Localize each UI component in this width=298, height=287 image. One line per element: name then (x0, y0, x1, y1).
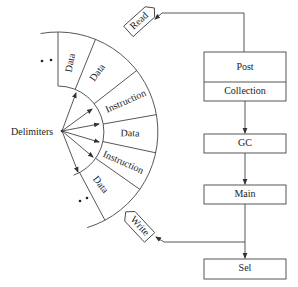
delimiters-hub: Delimiters (11, 93, 99, 172)
read-tag: Read (124, 3, 159, 37)
ellipsis-dot (50, 59, 53, 62)
post-to-read-connector (155, 13, 244, 52)
collection-label: Collection (224, 85, 266, 96)
segment-label: Data (91, 173, 112, 195)
buffer-flow-diagram: Data Data Instruction Data Instruction D… (0, 0, 298, 287)
post-label: Post (236, 61, 253, 72)
ellipsis-dot (41, 60, 44, 63)
segment-label: Data (120, 127, 140, 138)
delimiter-arrow (62, 124, 99, 131)
segment-label: Data (63, 52, 78, 73)
segment-label: Data (87, 61, 107, 83)
gc-box: GC (204, 134, 286, 153)
main-to-write-connector (156, 237, 245, 242)
delimiter-arrow (62, 93, 76, 131)
segment-label: Instruction (101, 148, 145, 176)
main-label: Main (234, 188, 255, 199)
main-box: Main (204, 185, 286, 204)
sel-label: Sel (239, 262, 252, 273)
write-tag: Write (121, 207, 155, 242)
ellipsis-dot (79, 200, 82, 203)
divider (103, 115, 156, 124)
post-collection-box: Post Collection (204, 52, 286, 101)
ring-buffer: Data Data Instruction Data Instruction D… (41, 32, 158, 228)
delimiter-arrow (62, 131, 99, 142)
ellipsis-dot (86, 197, 89, 200)
delimiters-label: Delimiters (11, 126, 53, 137)
gc-label: GC (238, 137, 252, 148)
sel-box: Sel (204, 259, 286, 279)
